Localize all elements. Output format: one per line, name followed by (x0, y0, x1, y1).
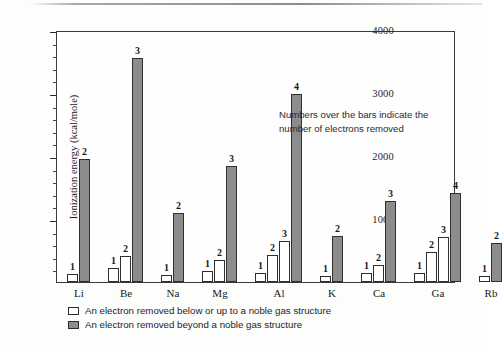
scan-artifact-line (30, 3, 482, 5)
bar: 2 (373, 265, 384, 282)
bar-electron-count-label: 2 (429, 239, 434, 250)
bar-electron-count-label: 2 (176, 200, 181, 211)
bar-group: 123Ca (361, 32, 397, 282)
bar: 2 (173, 213, 184, 282)
bar-groups: 12Li123Be12Na123Mg1234Al12K123Ca1234Ga12… (57, 32, 454, 282)
bar-electron-count-label: 3 (282, 228, 287, 239)
bar-electron-count-label: 4 (294, 81, 299, 92)
bar: 1 (108, 268, 119, 282)
bar-electron-count-label: 2 (123, 243, 128, 254)
bar: 2 (491, 243, 502, 282)
bar-group: 12Rb (479, 32, 503, 282)
chart-annotation: Numbers over the bars indicate the numbe… (279, 108, 457, 136)
x-axis-category-label: Mg (212, 287, 227, 299)
bar-group: 123Be (108, 32, 144, 282)
bar-group: 12Na (161, 32, 185, 282)
bar: 1 (161, 275, 172, 282)
bar-group: 1234Ga (414, 32, 462, 282)
bar-electron-count-label: 1 (70, 261, 75, 272)
bar-electron-count-label: 2 (335, 223, 340, 234)
plot-inner: 1000200030004000 Ionization energy (kcal… (57, 32, 454, 282)
bar-wrap: 123 (108, 32, 144, 282)
bar-electron-count-label: 3 (388, 188, 393, 199)
bar-wrap: 123 (361, 32, 397, 282)
bar-electron-count-label: 3 (229, 153, 234, 164)
bar: 3 (279, 241, 290, 282)
bar: 1 (479, 276, 490, 282)
bar-electron-count-label: 3 (135, 45, 140, 56)
bar: 2 (120, 256, 131, 282)
bar-wrap: 12 (320, 32, 344, 282)
bar: 3 (132, 58, 143, 282)
bar: 2 (267, 255, 278, 282)
bar-electron-count-label: 1 (417, 260, 422, 271)
bar-electron-count-label: 4 (453, 180, 458, 191)
bar: 4 (450, 193, 461, 282)
y-axis-major-tick (50, 158, 57, 159)
bar-electron-count-label: 1 (323, 263, 328, 274)
bar-wrap: 1234 (255, 32, 303, 282)
bar-group: 12Li (67, 32, 91, 282)
bar-group: 1234Al (255, 32, 303, 282)
bar: 3 (226, 166, 237, 282)
x-axis-category-label: Ga (432, 287, 445, 299)
bar: 2 (79, 159, 90, 282)
bar-wrap: 123 (202, 32, 238, 282)
x-axis-category-label: Na (167, 287, 180, 299)
bar: 1 (67, 274, 78, 282)
bar: 2 (426, 252, 437, 282)
bar: 1 (414, 273, 425, 282)
y-axis-major-tick (50, 95, 57, 96)
x-axis-category-label: Li (74, 287, 84, 299)
bar-group: 12K (320, 32, 344, 282)
x-axis-category-label: Ca (373, 287, 385, 299)
bar-electron-count-label: 2 (270, 242, 275, 253)
x-axis-category-label: K (328, 287, 336, 299)
legend-label-gray: An electron removed beyond a noble gas s… (85, 319, 302, 330)
y-axis-major-tick (50, 32, 57, 33)
bar: 3 (438, 237, 449, 282)
bar: 3 (385, 201, 396, 282)
bar: 2 (332, 236, 343, 282)
bar-wrap: 12 (67, 32, 91, 282)
legend-swatch-gray-icon (68, 321, 79, 329)
legend-item-white: An electron removed below or up to a nob… (68, 305, 331, 316)
legend-item-gray: An electron removed beyond a noble gas s… (68, 319, 331, 330)
bar-electron-count-label: 1 (205, 258, 210, 269)
bar: 1 (255, 273, 266, 282)
bar: 1 (202, 271, 213, 282)
legend-swatch-white-icon (68, 307, 79, 315)
x-axis-category-label: Rb (485, 287, 498, 299)
bar-wrap: 1234 (414, 32, 462, 282)
legend-label-white: An electron removed below or up to a nob… (85, 305, 331, 316)
x-axis-category-label: Be (120, 287, 132, 299)
bar-wrap: 12 (161, 32, 185, 282)
x-axis-category-label: Al (274, 287, 285, 299)
bar: 1 (320, 276, 331, 282)
bar: 2 (214, 260, 225, 282)
bar: 1 (361, 273, 372, 282)
bar-wrap: 12 (479, 32, 503, 282)
bar-electron-count-label: 2 (217, 247, 222, 258)
bar-electron-count-label: 1 (111, 255, 116, 266)
bar-electron-count-label: 3 (441, 224, 446, 235)
chart-legend: An electron removed below or up to a nob… (68, 305, 331, 333)
bar-electron-count-label: 1 (164, 262, 169, 273)
bar-group: 123Mg (202, 32, 238, 282)
bar-electron-count-label: 2 (376, 252, 381, 263)
plot-area: 1000200030004000 Ionization energy (kcal… (56, 31, 455, 283)
bar-electron-count-label: 2 (494, 230, 499, 241)
bar-electron-count-label: 1 (482, 263, 487, 274)
bar-electron-count-label: 1 (364, 260, 369, 271)
bar-electron-count-label: 2 (82, 146, 87, 157)
y-axis-major-tick (50, 221, 57, 222)
bar-electron-count-label: 1 (258, 260, 263, 271)
